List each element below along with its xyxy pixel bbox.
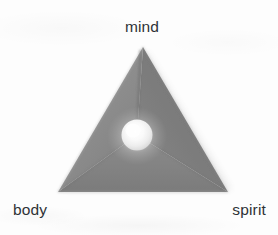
- pyramid-svg: [0, 0, 278, 235]
- label-body: body: [13, 202, 47, 218]
- pyramid-figure: [0, 0, 278, 235]
- label-mind: mind: [0, 19, 278, 35]
- label-spirit: spirit: [232, 202, 266, 218]
- sphere-highlight: [126, 124, 141, 138]
- figure-canvas: mind body spirit: [0, 0, 278, 235]
